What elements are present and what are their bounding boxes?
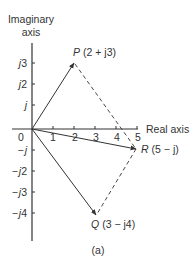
- y-tick-label-neg-j3: −j3: [12, 186, 27, 198]
- dashed-P-to-R: [75, 64, 136, 149]
- vector-P: [32, 63, 74, 129]
- y-tick-label-neg-j4: −j4: [12, 207, 27, 219]
- y-tick-label-neg-j2: −j2: [12, 165, 27, 177]
- y-tick-label-j2: j2: [17, 78, 27, 90]
- origin-label: 0: [18, 131, 24, 143]
- dashed-R-to-Q: [97, 149, 136, 214]
- y-axis-label-line2: axis: [22, 26, 41, 38]
- vector-Q: [32, 129, 96, 215]
- argand-diagram: Imaginary axis Real axis 0 1 2 3 4 5 j3 …: [0, 0, 195, 271]
- x-tick-label-5: 5: [135, 131, 141, 143]
- point-label-P: P(2 + j3): [73, 46, 116, 58]
- y-tick-label-neg-j: −j: [18, 144, 28, 156]
- y-tick-label-j3: j3: [17, 57, 27, 69]
- y-tick-label-j: j: [23, 99, 28, 111]
- x-tick-label-4: 4: [114, 131, 120, 143]
- figure-caption: (a): [92, 244, 105, 256]
- point-label-Q: Q(3 − j4): [91, 218, 135, 230]
- point-label-R: R(5 − j): [141, 143, 179, 155]
- vector-R: [32, 129, 136, 149]
- phasors: [32, 63, 136, 215]
- x-axis-label: Real axis: [146, 123, 189, 135]
- y-axis-label-line1: Imaginary: [8, 13, 55, 25]
